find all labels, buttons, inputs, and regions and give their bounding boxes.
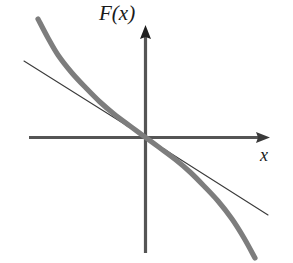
y-axis-label: F(x) (99, 3, 135, 24)
x-axis-label: x (260, 146, 268, 164)
x-axis-arrowhead-icon (256, 132, 270, 143)
function-plot-figure: F(x) x (0, 0, 293, 263)
y-axis-arrowhead-icon (140, 25, 151, 39)
plot-canvas (0, 0, 293, 263)
